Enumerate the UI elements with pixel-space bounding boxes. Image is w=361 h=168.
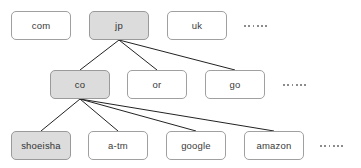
edge-jp-to-co [80, 40, 119, 70]
ellipsis-dot [324, 145, 326, 147]
domain-hierarchy-diagram: comjpukcoorgoshoeishaa-tmgoogleamazon [0, 0, 361, 168]
node-label: jp [115, 21, 123, 31]
tld-ellipsis [244, 22, 267, 30]
node-label: uk [192, 21, 202, 31]
edge-co-to-shoeisha [41, 99, 80, 131]
node-label: amazon [257, 141, 292, 151]
ellipsis-dot [287, 84, 289, 86]
edge-co-to-amazon [80, 99, 274, 131]
ellipsis-dot [244, 25, 246, 27]
node-com[interactable]: com [11, 11, 71, 40]
ellipsis-dot [300, 84, 302, 86]
node-label: google [181, 141, 211, 151]
org-ellipsis [320, 142, 343, 150]
node-label: co [75, 80, 85, 90]
node-uk[interactable]: uk [167, 11, 227, 40]
ellipsis-dot [283, 84, 285, 86]
node-a-tm[interactable]: a-tm [88, 131, 148, 160]
node-shoeisha[interactable]: shoeisha [11, 131, 71, 160]
ellipsis-dot [265, 25, 267, 27]
ellipsis-dot [296, 84, 298, 86]
edge-co-to-a-tm [80, 99, 118, 131]
sld-ellipsis [283, 81, 306, 89]
ellipsis-dot [337, 145, 339, 147]
ellipsis-dot [292, 84, 294, 86]
node-label: com [32, 21, 51, 31]
node-label: or [153, 80, 162, 90]
node-amazon[interactable]: amazon [244, 131, 304, 160]
ellipsis-dot [320, 145, 322, 147]
node-label: shoeisha [21, 141, 61, 151]
edge-jp-to-or [119, 40, 157, 70]
ellipsis-dot [333, 145, 335, 147]
edge-jp-to-go [119, 40, 235, 70]
ellipsis-dot [304, 84, 306, 86]
ellipsis-dot [248, 25, 250, 27]
edge-co-to-google [80, 99, 196, 131]
ellipsis-dot [257, 25, 259, 27]
node-or[interactable]: or [127, 70, 187, 99]
ellipsis-dot [341, 145, 343, 147]
node-jp[interactable]: jp [89, 11, 149, 40]
ellipsis-dot [253, 25, 255, 27]
node-label: a-tm [108, 141, 128, 151]
node-co[interactable]: co [50, 70, 110, 99]
node-label: go [230, 80, 241, 90]
ellipsis-dot [261, 25, 263, 27]
node-go[interactable]: go [205, 70, 265, 99]
node-google[interactable]: google [166, 131, 226, 160]
ellipsis-dot [329, 145, 331, 147]
